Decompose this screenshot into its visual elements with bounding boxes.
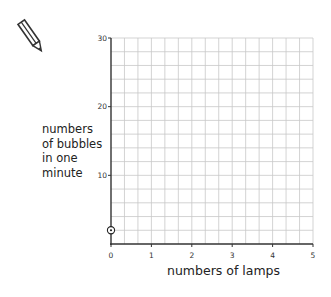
y-axis-label-line: numbers [42, 122, 122, 137]
y-axis-label-line: minute [42, 166, 122, 181]
x-tick-label: 5 [311, 251, 316, 260]
y-axis-label-line: in one [42, 151, 122, 166]
x-tick-label: 0 [109, 251, 114, 260]
x-tick-label: 2 [189, 251, 194, 260]
x-tick-label: 1 [149, 251, 154, 260]
data-point [110, 229, 112, 231]
y-axis-label: numbers of bubbles in one minute [42, 122, 122, 180]
y-tick-label: 30 [97, 34, 107, 43]
y-tick-label: 20 [97, 102, 107, 111]
y-axis-label-line: of bubbles [42, 137, 122, 152]
x-tick-label: 3 [230, 251, 235, 260]
x-axis-label: numbers of lamps [167, 263, 280, 278]
x-tick-label: 4 [270, 251, 275, 260]
